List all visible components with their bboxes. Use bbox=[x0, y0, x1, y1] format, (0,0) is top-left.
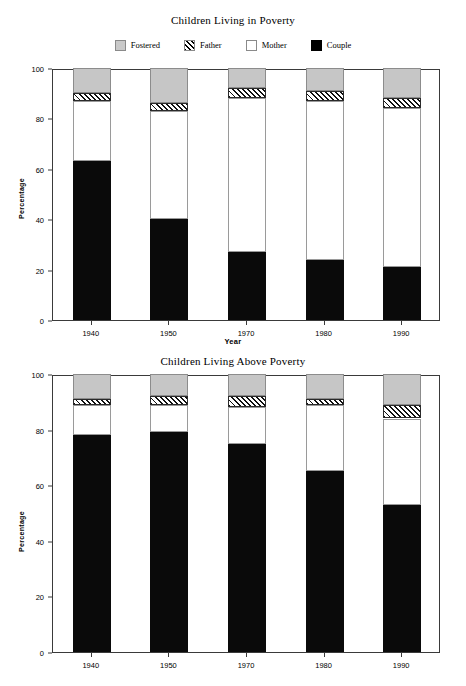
y-axis-tick-label: 60 bbox=[0, 165, 44, 174]
bar-segment-fostered[interactable] bbox=[150, 68, 188, 103]
bar-1990[interactable] bbox=[383, 374, 421, 652]
x-axis-tick-label-1940: 1940 bbox=[82, 661, 99, 670]
x-axis-tick-mark bbox=[168, 321, 169, 325]
bar-segment-mother[interactable] bbox=[228, 98, 266, 252]
legend-label-couple: Couple bbox=[327, 40, 352, 50]
y-axis-tick-label: 100 bbox=[0, 65, 44, 74]
bar-segment-father[interactable] bbox=[228, 88, 266, 98]
x-axis-tick-mark bbox=[246, 653, 247, 657]
bar-segment-mother[interactable] bbox=[306, 101, 344, 260]
chart-title-above-poverty: Children Living Above Poverty bbox=[0, 355, 466, 367]
y-axis-tick-label: 40 bbox=[0, 537, 44, 546]
bar-segment-mother[interactable] bbox=[150, 111, 188, 219]
x-axis-tick-mark bbox=[246, 321, 247, 325]
bar-segment-fostered[interactable] bbox=[306, 68, 344, 91]
couple-swatch-icon bbox=[311, 40, 322, 51]
legend-item-couple: Couple bbox=[311, 40, 352, 51]
x-axis-label-top: Year bbox=[0, 337, 466, 346]
above-poverty-chart-panel: Children Living Above Poverty Percentage… bbox=[0, 348, 466, 686]
bar-segment-mother[interactable] bbox=[228, 407, 266, 443]
bar-segment-father[interactable] bbox=[383, 405, 421, 419]
bar-segment-mother[interactable] bbox=[73, 405, 111, 436]
legend-label-fostered: Fostered bbox=[131, 40, 160, 50]
bar-segment-fostered[interactable] bbox=[228, 68, 266, 88]
bar-segment-couple[interactable] bbox=[383, 267, 421, 320]
bar-segment-couple[interactable] bbox=[150, 219, 188, 320]
legend-item-mother: Mother bbox=[246, 40, 287, 51]
y-axis-tick-label: 0 bbox=[0, 649, 44, 658]
x-axis-tick-mark bbox=[91, 321, 92, 325]
bar-segment-father[interactable] bbox=[73, 93, 111, 101]
fostered-swatch-icon bbox=[115, 40, 126, 51]
bar-1940[interactable] bbox=[73, 374, 111, 652]
bar-segment-mother[interactable] bbox=[73, 101, 111, 161]
x-axis-tick-mark bbox=[91, 653, 92, 657]
bar-1950[interactable] bbox=[150, 374, 188, 652]
bar-segment-mother[interactable] bbox=[383, 108, 421, 267]
y-axis-tick-label: 60 bbox=[0, 482, 44, 491]
x-axis-tick-mark bbox=[324, 321, 325, 325]
y-axis-tick-label: 40 bbox=[0, 216, 44, 225]
chart-title-poverty: Children Living in Poverty bbox=[0, 14, 466, 26]
legend-item-father: Father bbox=[184, 40, 222, 51]
bar-segment-father[interactable] bbox=[306, 91, 344, 101]
y-axis-tick-label: 80 bbox=[0, 115, 44, 124]
x-axis-tick-mark bbox=[324, 653, 325, 657]
poverty-chart-panel: Children Living in Poverty Fostered Fath… bbox=[0, 0, 466, 352]
mother-swatch-icon bbox=[246, 40, 257, 51]
bar-segment-couple[interactable] bbox=[383, 505, 421, 652]
bar-segment-couple[interactable] bbox=[228, 444, 266, 653]
bar-segment-mother[interactable] bbox=[306, 405, 344, 472]
bar-segment-father[interactable] bbox=[150, 103, 188, 111]
bar-segment-couple[interactable] bbox=[228, 252, 266, 320]
bar-segment-couple[interactable] bbox=[306, 471, 344, 652]
bar-segment-couple[interactable] bbox=[73, 161, 111, 320]
bar-segment-father[interactable] bbox=[73, 399, 111, 405]
bar-segment-fostered[interactable] bbox=[150, 374, 188, 396]
bar-segment-fostered[interactable] bbox=[306, 374, 344, 399]
x-axis-tick-mark bbox=[401, 653, 402, 657]
bar-segment-fostered[interactable] bbox=[383, 68, 421, 98]
x-axis-tick-label-1950: 1950 bbox=[160, 661, 177, 670]
plot-area-poverty bbox=[52, 69, 440, 321]
x-axis-tick-label-1980: 1980 bbox=[315, 661, 332, 670]
y-axis-tick-label: 20 bbox=[0, 266, 44, 275]
bar-segment-couple[interactable] bbox=[73, 435, 111, 652]
chart-legend: Fostered Father Mother Couple bbox=[0, 38, 466, 52]
x-axis-tick-mark bbox=[401, 321, 402, 325]
father-swatch-icon bbox=[184, 40, 195, 51]
bar-segment-father[interactable] bbox=[306, 399, 344, 405]
chart-page: Children Living in Poverty Fostered Fath… bbox=[0, 0, 466, 686]
plot-area-above-poverty bbox=[52, 375, 440, 653]
y-axis-label-bottom: Percentage bbox=[18, 502, 25, 562]
bar-1980[interactable] bbox=[306, 374, 344, 652]
y-axis-tick-label: 0 bbox=[0, 317, 44, 326]
bar-1990[interactable] bbox=[383, 68, 421, 320]
bar-1950[interactable] bbox=[150, 68, 188, 320]
x-axis-tick-label-1970: 1970 bbox=[238, 661, 255, 670]
bar-segment-father[interactable] bbox=[383, 98, 421, 108]
bar-segment-mother[interactable] bbox=[383, 419, 421, 505]
x-axis-tick-mark bbox=[168, 653, 169, 657]
legend-item-fostered: Fostered bbox=[115, 40, 160, 51]
x-axis-tick-label-1990: 1990 bbox=[393, 661, 410, 670]
bar-1970[interactable] bbox=[228, 68, 266, 320]
bar-segment-fostered[interactable] bbox=[73, 374, 111, 399]
y-axis-tick-label: 80 bbox=[0, 426, 44, 435]
bar-segment-couple[interactable] bbox=[306, 260, 344, 320]
legend-label-father: Father bbox=[200, 40, 222, 50]
legend-label-mother: Mother bbox=[262, 40, 287, 50]
bar-segment-fostered[interactable] bbox=[383, 374, 421, 405]
bar-segment-father[interactable] bbox=[228, 396, 266, 407]
y-axis-tick-label: 100 bbox=[0, 371, 44, 380]
bar-segment-father[interactable] bbox=[150, 396, 188, 404]
bar-1940[interactable] bbox=[73, 68, 111, 320]
bar-segment-mother[interactable] bbox=[150, 405, 188, 433]
y-axis-tick-label: 20 bbox=[0, 593, 44, 602]
bar-1970[interactable] bbox=[228, 374, 266, 652]
bar-segment-couple[interactable] bbox=[150, 432, 188, 652]
bar-segment-fostered[interactable] bbox=[228, 374, 266, 396]
bar-1980[interactable] bbox=[306, 68, 344, 320]
bar-segment-fostered[interactable] bbox=[73, 68, 111, 93]
